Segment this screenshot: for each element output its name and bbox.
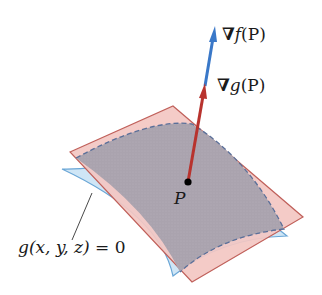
point-p-label: P	[173, 188, 186, 208]
grad-g-label: ∇g(P)	[217, 75, 265, 95]
point-p	[184, 178, 191, 185]
grad-f-label: ∇f(P)	[222, 24, 266, 44]
surface-equation-label: g(x, y, z) = 0	[18, 237, 126, 257]
grad-f-arrow	[205, 26, 217, 86]
gradient-diagram: ∇f(P) ∇g(P) P g(x, y, z) = 0	[0, 0, 322, 295]
surface-leader-line	[72, 193, 92, 240]
